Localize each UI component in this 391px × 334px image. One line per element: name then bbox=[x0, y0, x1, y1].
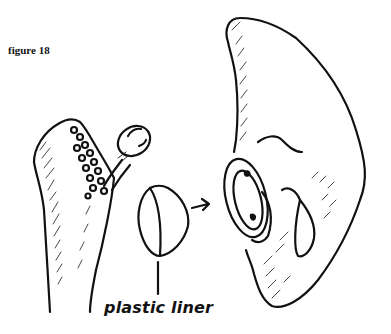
acetabular-liner bbox=[138, 186, 188, 294]
iliac-crest-line bbox=[258, 136, 302, 152]
arrow-icon bbox=[192, 199, 209, 210]
obturator-foramen bbox=[295, 200, 314, 256]
porous-coating bbox=[71, 127, 107, 199]
plastic-liner-label: plastic liner bbox=[104, 298, 213, 317]
pelvis-left-edge bbox=[228, 42, 238, 152]
liner-rim bbox=[150, 188, 161, 256]
acetabular-cup bbox=[217, 154, 275, 242]
femur-neck bbox=[104, 160, 130, 190]
pelvis bbox=[217, 18, 365, 307]
femoral-ball-head bbox=[112, 120, 156, 162]
liner-outline bbox=[138, 186, 188, 256]
hip-replacement-illustration bbox=[0, 0, 391, 334]
